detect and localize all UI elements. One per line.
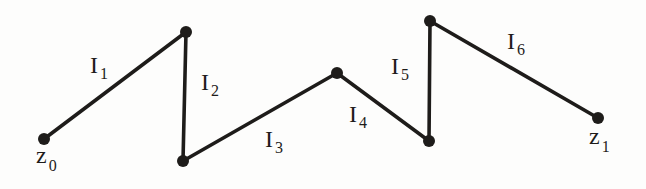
polygonal-path-figure-container: I1I2I3I4I5I6z0z1 xyxy=(0,0,646,189)
polygonal-path-figure: I1I2I3I4I5I6z0z1 xyxy=(0,0,646,189)
endpoint-label-z1-subscript: 1 xyxy=(602,138,610,155)
segment-label-I3-subscript: 3 xyxy=(275,139,283,156)
segment-label-I2: I2 xyxy=(201,69,219,99)
endpoint-label-z0-subscript: 0 xyxy=(49,157,57,174)
vertex-dot-v4 xyxy=(423,135,435,147)
segment-label-I1-base: I xyxy=(90,52,98,78)
segment-label-I1: I1 xyxy=(90,52,108,82)
segment-label-I5-base: I xyxy=(391,53,399,79)
segment-label-I6: I6 xyxy=(507,28,525,58)
segment-label-I5: I5 xyxy=(391,53,409,83)
endpoint-label-z1-base: z xyxy=(589,123,600,149)
segment-label-I4: I4 xyxy=(349,101,367,131)
segment-I1-line xyxy=(44,32,186,139)
endpoint-label-z0: z0 xyxy=(36,142,57,174)
vertex-dot-v3 xyxy=(331,67,343,79)
segment-label-I4-base: I xyxy=(349,101,357,127)
segment-I2-line xyxy=(183,32,186,161)
vertex-dot-v5 xyxy=(424,15,436,27)
segment-label-I2-base: I xyxy=(201,69,209,95)
endpoint-label-z1: z1 xyxy=(589,123,610,155)
segment-label-I6-subscript: 6 xyxy=(517,41,525,58)
segment-label-I5-subscript: 5 xyxy=(401,66,409,83)
vertex-dot-v2 xyxy=(177,155,189,167)
segment-label-I3-base: I xyxy=(265,126,273,152)
vertex-dot-v1 xyxy=(180,26,192,38)
segment-label-I2-subscript: 2 xyxy=(211,82,219,99)
endpoint-label-z0-base: z xyxy=(36,142,47,168)
segment-label-I3: I3 xyxy=(265,126,283,156)
segment-I5-line xyxy=(429,21,430,141)
segment-label-I4-subscript: 4 xyxy=(359,114,367,131)
segment-label-I6-base: I xyxy=(507,28,515,54)
segment-label-I1-subscript: 1 xyxy=(100,65,108,82)
